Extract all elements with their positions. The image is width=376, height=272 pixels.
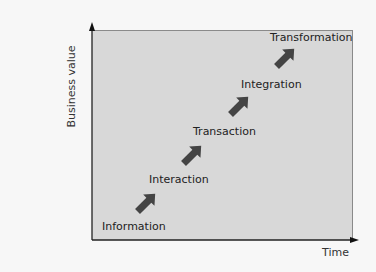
y-axis-arrowhead-icon xyxy=(89,22,95,31)
arrow-icon xyxy=(225,91,254,120)
stage-transaction: Transaction xyxy=(193,125,256,138)
arrow-icon xyxy=(178,140,207,169)
stage-transformation: Transformation xyxy=(270,31,353,44)
stage-interaction: Interaction xyxy=(149,173,209,186)
stage-information: Information xyxy=(102,220,166,233)
y-axis-label-text: Business value xyxy=(65,37,78,137)
arrow-icon xyxy=(132,188,161,217)
stage-integration: Integration xyxy=(241,78,302,91)
x-axis-arrowhead-icon xyxy=(350,237,359,243)
x-axis-label: Time xyxy=(322,246,349,259)
arrow-icon xyxy=(271,43,300,72)
